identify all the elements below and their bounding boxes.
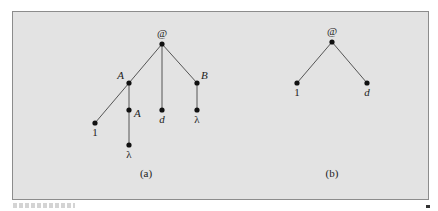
node-label-d: d — [364, 86, 370, 98]
edge-A1-one — [95, 83, 129, 123]
node-A1 — [126, 80, 131, 85]
edge-root-B — [162, 44, 197, 83]
tree-a: @AdB1Aλλ(a) — [92, 27, 208, 180]
node-label-A2: A — [133, 107, 141, 119]
edge-root-d — [332, 42, 367, 83]
tree-diagram: @AdB1Aλλ(a) @1d(b) — [0, 0, 438, 211]
node-label-A1: A — [116, 69, 124, 81]
node-d — [159, 107, 164, 112]
node-lam1 — [126, 142, 131, 147]
node-label-d: d — [159, 113, 165, 125]
node-one — [294, 80, 299, 85]
node-label-B: B — [201, 69, 208, 81]
node-d — [364, 80, 369, 85]
node-lam2 — [194, 107, 199, 112]
node-root — [329, 39, 334, 44]
node-B — [194, 80, 199, 85]
cropped-caption-text — [13, 203, 75, 208]
node-label-lam1: λ — [126, 148, 132, 160]
node-one — [92, 120, 97, 125]
tree-b: @1d(b) — [294, 25, 370, 180]
node-A2 — [126, 107, 131, 112]
node-label-root: @ — [157, 27, 167, 39]
edge-root-one — [297, 42, 332, 83]
page-mark — [426, 205, 430, 208]
caption-a: (a) — [140, 167, 153, 180]
node-label-one: 1 — [92, 126, 98, 138]
node-label-one: 1 — [294, 86, 300, 98]
caption-b: (b) — [326, 167, 339, 180]
edge-root-A1 — [129, 44, 162, 83]
node-label-lam2: λ — [194, 113, 200, 125]
node-label-root: @ — [327, 25, 337, 37]
node-root — [159, 41, 164, 46]
